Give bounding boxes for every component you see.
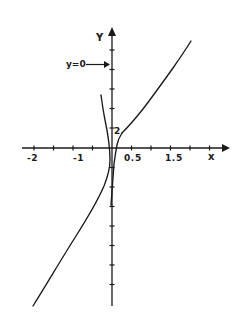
value-marker-label: 2 <box>114 127 120 136</box>
y-axis-arrowhead <box>108 27 116 36</box>
x-tick-label-1-5: 1.5 <box>165 154 183 163</box>
x-axis-arrowhead <box>222 144 230 152</box>
annotation-label-y-equals-0: y=0 <box>66 60 86 69</box>
x-tick-label-minus-2: -2 <box>27 154 38 163</box>
graph-figure: Y x -2 -1 0.5 1.5 2 y=0 <box>0 0 232 322</box>
y-axis-label: Y <box>96 33 103 43</box>
x-tick-label-minus-1: -1 <box>73 154 84 163</box>
x-axis-label: x <box>208 152 214 162</box>
annotation-arrow-y-equals-0 <box>86 61 110 68</box>
curve-left-branch <box>33 95 110 306</box>
curve-right-branch <box>122 41 191 133</box>
x-tick-label-0-5: 0.5 <box>124 154 142 163</box>
